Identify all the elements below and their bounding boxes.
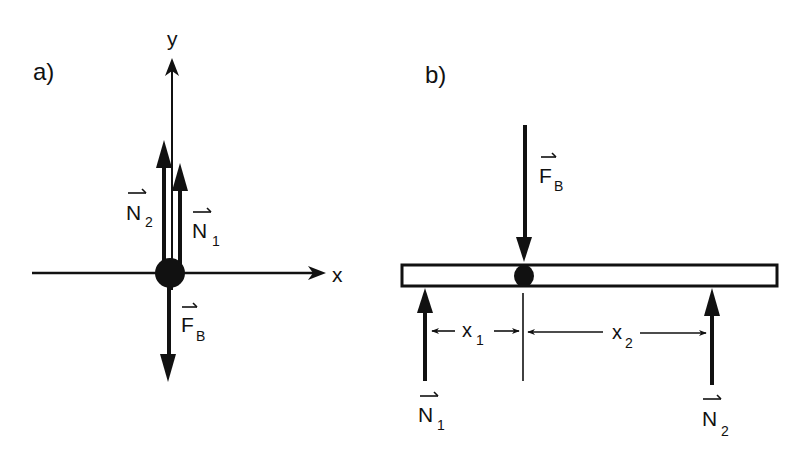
panel-a: a) y x N 2 xyxy=(32,27,343,382)
vector-n2-a: N 2 xyxy=(126,140,172,264)
svg-text:F: F xyxy=(539,164,552,187)
center-of-mass-dot xyxy=(514,265,534,287)
svg-text:N: N xyxy=(126,201,141,224)
vector-fb-b: F B xyxy=(516,125,563,262)
arrowhead-up-icon xyxy=(172,163,188,191)
vector-n1-b-label: N 1 xyxy=(418,392,445,433)
x-axis-label: x xyxy=(332,263,343,286)
panel-b-label: b) xyxy=(425,61,446,88)
arrowhead-up-icon xyxy=(704,288,720,316)
svg-text:B: B xyxy=(554,178,563,194)
vector-fb-a: F B xyxy=(160,286,205,382)
beam xyxy=(402,265,777,286)
panel-b: b) F B N 1 xyxy=(402,61,777,439)
svg-text:x: x xyxy=(612,321,622,343)
arrowhead-up-icon xyxy=(417,288,433,313)
svg-text:F: F xyxy=(181,313,194,336)
svg-text:2: 2 xyxy=(625,335,633,351)
arrowhead-down-icon xyxy=(160,354,176,382)
svg-text:N: N xyxy=(418,403,433,426)
svg-text:1: 1 xyxy=(212,233,220,249)
svg-text:1: 1 xyxy=(437,417,445,433)
svg-text:N: N xyxy=(702,407,717,430)
y-axis-label: y xyxy=(167,27,178,50)
vector-n2-b: N 2 xyxy=(702,288,729,439)
dimension-x1: x 1 xyxy=(432,319,519,348)
vector-n1-a: N 1 xyxy=(172,163,220,264)
svg-text:1: 1 xyxy=(476,332,484,348)
dimension-x2: x 2 xyxy=(528,321,706,351)
free-body-diagram: a) y x N 2 xyxy=(0,0,804,465)
svg-text:x: x xyxy=(462,319,472,341)
vector-n2-a-label: N 2 xyxy=(126,189,153,230)
vector-fb-b-label: F B xyxy=(539,153,563,194)
svg-text:B: B xyxy=(196,328,205,344)
particle-dot xyxy=(155,258,185,288)
arrowhead-down-icon xyxy=(516,237,532,262)
panel-a-label: a) xyxy=(33,58,54,85)
vector-fb-a-label: F B xyxy=(181,303,205,344)
svg-text:2: 2 xyxy=(721,423,729,439)
arrowhead-up-icon xyxy=(156,140,172,168)
svg-text:N: N xyxy=(192,219,207,242)
x-axis: x xyxy=(32,263,343,286)
vector-n1-b: N 1 xyxy=(417,288,445,433)
vector-n1-a-label: N 1 xyxy=(192,208,220,249)
svg-text:2: 2 xyxy=(145,214,153,230)
vector-n2-b-label: N 2 xyxy=(702,395,729,439)
